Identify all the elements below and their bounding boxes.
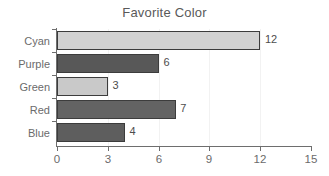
x-label-3: 3 — [96, 153, 120, 165]
y-label-cyan: Cyan — [2, 35, 50, 47]
x-tick — [260, 147, 261, 151]
y-label-green: Green — [2, 81, 50, 93]
x-tick — [57, 147, 58, 151]
x-tick — [159, 147, 160, 151]
bar-blue[interactable] — [57, 123, 125, 142]
y-label-purple: Purple — [2, 58, 50, 70]
x-tick — [311, 147, 312, 151]
x-label-9: 9 — [197, 153, 221, 165]
x-label-12: 12 — [248, 153, 272, 165]
gridline-12 — [260, 29, 261, 146]
x-tick — [108, 147, 109, 151]
y-axis-line — [56, 28, 57, 147]
bar-value-purple: 6 — [164, 56, 170, 68]
bar-green[interactable] — [57, 77, 108, 96]
bar-purple[interactable] — [57, 54, 159, 73]
y-tick — [52, 29, 57, 30]
y-tick — [52, 75, 57, 76]
x-tick — [209, 147, 210, 151]
bar-value-blue: 4 — [130, 125, 136, 137]
y-tick — [52, 52, 57, 53]
bar-cyan[interactable] — [57, 31, 260, 50]
x-label-0: 0 — [45, 153, 69, 165]
bar-value-red: 7 — [180, 102, 186, 114]
x-label-15: 15 — [299, 153, 323, 165]
bar-value-green: 3 — [113, 79, 119, 91]
y-tick — [52, 98, 57, 99]
bar-red[interactable] — [57, 100, 176, 119]
x-label-6: 6 — [147, 153, 171, 165]
y-axis-labels: Cyan Purple Green Red Blue — [0, 0, 50, 176]
y-label-red: Red — [2, 104, 50, 116]
y-label-blue: Blue — [2, 127, 50, 139]
bar-value-cyan: 12 — [265, 33, 277, 45]
y-tick — [52, 121, 57, 122]
x-axis-line — [56, 146, 312, 147]
plot-area: 12 6 3 7 4 — [57, 29, 311, 146]
bar-chart: Favorite Color 12 6 3 7 4 — [0, 0, 329, 176]
